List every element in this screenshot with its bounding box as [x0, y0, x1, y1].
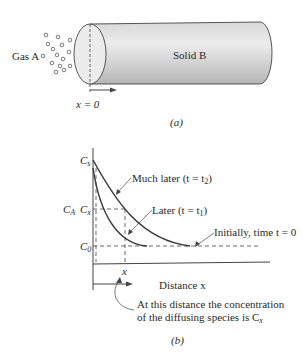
much-later-label: Much later (t = t2) — [132, 172, 212, 188]
origin-label: x = 0 — [76, 98, 99, 110]
cs-label: Cs — [80, 154, 90, 170]
c0-label: C0 — [80, 240, 91, 256]
distance-arrow — [93, 282, 133, 287]
initially-label: Initially, time t = 0 — [214, 226, 296, 238]
solid-b-label: Solid B — [173, 49, 206, 61]
x-direction-arrow — [90, 88, 117, 93]
caption-a: (a) — [170, 116, 183, 128]
caption-b: (b) — [171, 334, 184, 346]
later-label: Later (t = t1) — [152, 204, 207, 220]
ca-label: CA — [63, 203, 75, 219]
cx-label: Cx — [80, 203, 91, 219]
annotation-line-1: At this distance the concentration — [137, 298, 284, 310]
x-axis-label: Distance x — [159, 279, 206, 291]
gas-molecules-icon — [41, 33, 72, 74]
gas-a-label: Gas A — [12, 50, 39, 62]
x-tick-label: x — [122, 265, 127, 277]
annotation-line-2: of the diffusing species is Cx — [137, 311, 263, 327]
